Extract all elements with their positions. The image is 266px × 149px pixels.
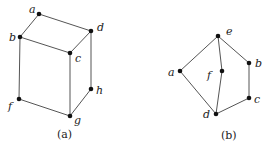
vertex-f: [220, 69, 225, 74]
vertex-label: g: [74, 114, 81, 127]
vertex-d: [89, 29, 94, 34]
vertex-e: [216, 34, 221, 39]
edge-c-d: [216, 98, 249, 114]
edge-e-b: [218, 36, 249, 63]
graph-diagram: adbcfgh(a) eafbcd(b): [0, 0, 266, 149]
vertex-h: [89, 87, 94, 92]
graph-a: adbcfgh(a): [7, 3, 104, 141]
edge-f-d: [216, 71, 222, 114]
edge-g-h: [70, 89, 91, 116]
vertex-label: d: [203, 108, 210, 121]
vertex-a: [178, 69, 183, 74]
vertex-label: c: [254, 93, 260, 106]
edge-f-g: [19, 99, 70, 116]
vertex-label: f: [7, 100, 14, 113]
vertex-label: h: [96, 84, 103, 97]
vertex-d: [214, 112, 219, 117]
vertex-label: b: [9, 31, 16, 44]
vertex-f: [17, 97, 22, 102]
vertex-a: [37, 12, 42, 17]
vertex-label: e: [226, 25, 233, 38]
edge-e-a: [180, 36, 218, 71]
vertex-g: [68, 114, 73, 119]
edge-a-d: [39, 14, 91, 31]
vertex-label: a: [29, 3, 36, 16]
edge-b-c: [20, 37, 70, 53]
vertex-c: [247, 96, 252, 101]
edge-a-b: [20, 14, 39, 37]
vertex-label: f: [206, 69, 213, 82]
vertex-label: c: [75, 52, 81, 65]
vertex-label: b: [255, 57, 262, 70]
vertex-b: [247, 61, 252, 66]
figure-caption: (a): [57, 128, 72, 141]
graph-b: eafbcd(b): [168, 25, 262, 142]
vertex-b: [18, 35, 23, 40]
vertex-c: [68, 51, 73, 56]
edge-e-f: [218, 36, 222, 71]
edge-b-f: [19, 37, 20, 99]
edge-d-c: [70, 31, 91, 53]
vertex-label: a: [168, 66, 175, 79]
figure-caption: (b): [221, 129, 237, 142]
vertex-label: d: [97, 21, 104, 34]
